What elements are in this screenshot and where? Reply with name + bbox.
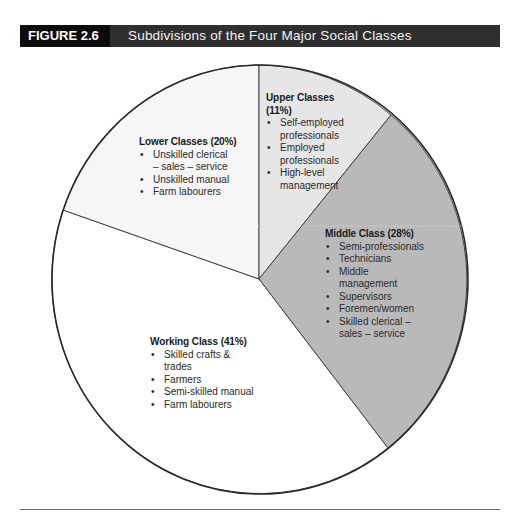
- list-item: Self-employed professionals: [266, 117, 350, 142]
- list-item: Unskilled clerical – sales – service: [139, 149, 233, 174]
- list-item: Skilled clerical – sales – service: [325, 316, 419, 341]
- list-item: Foremen/women: [325, 303, 440, 316]
- list-item: Farm labourers: [150, 399, 260, 412]
- slice-title: Middle Class (28%): [325, 228, 440, 241]
- pie-chart: [0, 0, 521, 520]
- slice-title: Upper Classes (11%): [266, 92, 361, 117]
- list-item: Technicians: [325, 253, 440, 266]
- label-working-class: Working Class (41%) Skilled crafts & tra…: [150, 336, 260, 411]
- list-item: Unskilled manual: [139, 174, 239, 187]
- bottom-rule: [20, 509, 500, 510]
- list-item: Middle management: [325, 266, 399, 291]
- list-item: Farm labourers: [139, 186, 239, 199]
- list-item: Semi-skilled manual: [150, 386, 260, 399]
- list-item: High-level management: [266, 167, 350, 192]
- slice-title: Lower Classes (20%): [139, 136, 239, 149]
- list-item: Semi-professionals: [325, 241, 440, 254]
- list-item: Supervisors: [325, 291, 440, 304]
- list-item: Farmers: [150, 374, 260, 387]
- label-middle-class: Middle Class (28%) Semi-professionals Te…: [325, 228, 440, 341]
- list-item: Employed professionals: [266, 142, 350, 167]
- list-item: Skilled crafts & trades: [150, 349, 234, 374]
- label-lower-classes: Lower Classes (20%) Unskilled clerical –…: [139, 136, 239, 199]
- label-upper-classes: Upper Classes (11%) Self-employed profes…: [266, 92, 361, 192]
- slice-title: Working Class (41%): [150, 336, 260, 349]
